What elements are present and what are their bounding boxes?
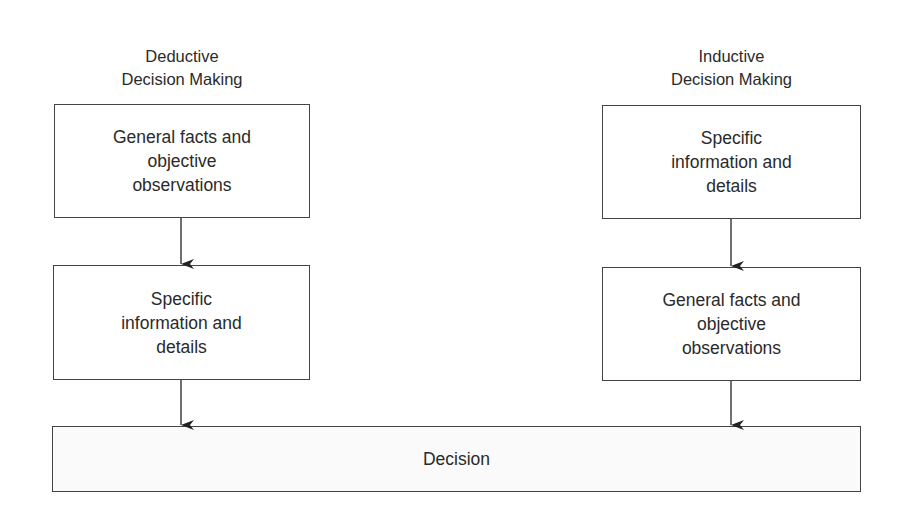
connector-arrows [0, 0, 903, 513]
